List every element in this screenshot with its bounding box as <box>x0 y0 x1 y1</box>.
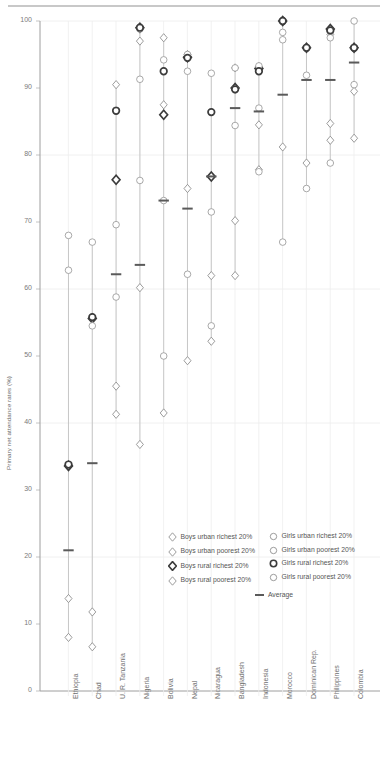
datapoint-boys-urban-poorest-20-6 <box>208 337 215 345</box>
datapoint-boys-rural-poorest-20-9 <box>279 143 286 151</box>
datapoint-girls-urban-richest-20-12 <box>351 18 358 25</box>
average-line-icon <box>255 594 264 596</box>
datapoint-boys-urban-poorest-20-2 <box>113 382 120 390</box>
datapoint-girls-rural-richest-20-7 <box>232 86 239 93</box>
datapoint-boys-rural-poorest-20-6 <box>208 272 215 280</box>
datapoint-boys-urban-poorest-20-1 <box>89 608 96 616</box>
datapoint-girls-rural-richest-20-1 <box>89 314 96 321</box>
legend-item-girls-3: Girls rural poorest 20% <box>269 573 355 582</box>
datapoint-boys-urban-poorest-20-0 <box>65 594 72 602</box>
datapoint-boys-urban-poorest-20-4 <box>160 101 167 109</box>
legend-label-girls-0: Girls urban richest 20% <box>281 533 352 540</box>
chart-legend: Boys urban richest 20%Boys urban poorest… <box>168 532 380 598</box>
datapoint-girls-rural-poorest-20-6 <box>208 209 215 216</box>
legend-label-boys-2: Boys rural richest 20% <box>181 563 249 570</box>
datapoint-boys-rural-poorest-20-11 <box>327 136 334 144</box>
datapoint-girls-urban-poorest-20-2 <box>113 221 120 228</box>
datapoint-girls-rural-richest-20-10 <box>303 45 310 52</box>
datapoint-girls-urban-richest-20-0 <box>65 232 72 239</box>
datapoint-boys-rural-poorest-20-2 <box>113 410 120 418</box>
datapoint-boys-urban-poorest-20-5 <box>184 184 191 192</box>
datapoint-boys-urban-richest-20-3 <box>136 37 143 45</box>
legend-label-boys-0: Boys urban richest 20% <box>181 534 253 541</box>
circle-bold-icon <box>269 559 278 568</box>
datapoint-girls-rural-poorest-20-2 <box>113 294 120 301</box>
datapoint-girls-urban-poorest-20-9 <box>279 36 286 43</box>
datapoint-girls-rural-poorest-20-9 <box>279 239 286 246</box>
datapoint-girls-rural-richest-20-5 <box>184 55 191 62</box>
legend-item-girls-0: Girls urban richest 20% <box>269 532 355 541</box>
datapoint-girls-urban-richest-20-4 <box>160 57 167 64</box>
legend-label-boys-1: Boys urban poorest 20% <box>181 548 255 555</box>
datapoint-boys-rural-poorest-20-5 <box>184 357 191 365</box>
legend-label-average: Average <box>268 591 293 598</box>
datapoint-boys-rural-poorest-20-0 <box>65 633 72 641</box>
legend-label-girls-3: Girls rural poorest 20% <box>281 574 351 581</box>
datapoint-boys-urban-poorest-20-11 <box>327 119 334 127</box>
datapoint-boys-rural-poorest-20-4 <box>160 409 167 417</box>
datapoint-girls-rural-poorest-20-8 <box>256 168 263 175</box>
datapoint-boys-rural-poorest-20-10 <box>303 159 310 167</box>
datapoint-boys-rural-poorest-20-3 <box>136 284 143 292</box>
datapoint-girls-rural-richest-20-11 <box>327 27 334 34</box>
datapoint-girls-urban-richest-20-7 <box>232 65 239 72</box>
datapoint-girls-urban-poorest-20-6 <box>208 323 215 330</box>
diamond-open-icon <box>168 576 177 586</box>
circle-open-icon <box>269 573 278 582</box>
datapoint-girls-urban-poorest-20-4 <box>160 353 167 360</box>
circle-open-icon <box>269 546 278 555</box>
datapoint-girls-rural-poorest-20-7 <box>232 122 239 129</box>
series-boys-urban-richest-20 <box>113 30 334 88</box>
datapoint-girls-urban-poorest-20-8 <box>256 105 263 112</box>
datapoint-boys-rural-poorest-20-12 <box>351 134 358 142</box>
legend-label-girls-2: Girls rural richest 20% <box>281 560 348 567</box>
datapoint-girls-urban-poorest-20-5 <box>184 271 191 278</box>
datapoint-boys-urban-poorest-20-8 <box>255 121 262 129</box>
legend-item-boys-2: Boys rural richest 20% <box>168 561 255 571</box>
datapoint-girls-rural-richest-20-2 <box>113 107 120 114</box>
plot-area <box>0 0 388 777</box>
datapoint-girls-rural-richest-20-0 <box>65 461 72 468</box>
circle-open-icon <box>269 532 278 541</box>
legend-item-boys-3: Boys rural poorest 20% <box>168 576 255 586</box>
datapoint-girls-rural-poorest-20-1 <box>89 323 96 330</box>
datapoint-boys-urban-richest-20-4 <box>160 34 167 42</box>
datapoint-girls-rural-poorest-20-11 <box>327 160 334 167</box>
datapoint-girls-rural-richest-20-8 <box>256 68 263 75</box>
datapoint-girls-rural-richest-20-4 <box>160 68 167 75</box>
datapoint-boys-urban-poorest-20-3 <box>136 440 143 448</box>
datapoint-girls-rural-poorest-20-12 <box>351 81 358 88</box>
diamond-bold-icon <box>168 561 177 571</box>
legend-label-girls-1: Girls urban poorest 20% <box>281 547 354 554</box>
datapoint-boys-rural-poorest-20-1 <box>89 643 96 651</box>
diamond-open-icon <box>168 532 177 542</box>
legend-label-boys-3: Boys rural poorest 20% <box>181 577 252 584</box>
datapoint-boys-rural-poorest-20-7 <box>232 272 239 280</box>
datapoint-girls-rural-poorest-20-10 <box>303 185 310 192</box>
legend-item-boys-1: Boys urban poorest 20% <box>168 547 255 557</box>
datapoint-boys-rural-richest-20-4 <box>160 110 168 119</box>
legend-item-girls-1: Girls urban poorest 20% <box>269 546 355 555</box>
datapoint-girls-rural-richest-20-3 <box>137 24 144 31</box>
datapoint-boys-urban-poorest-20-7 <box>232 217 239 225</box>
datapoint-girls-urban-poorest-20-3 <box>137 76 144 83</box>
legend-column-boys: Boys urban richest 20%Boys urban poorest… <box>168 532 255 586</box>
datapoint-girls-urban-richest-20-6 <box>208 70 215 77</box>
legend-column-girls: Girls urban richest 20%Girls urban poore… <box>269 532 355 586</box>
datapoint-boys-urban-richest-20-2 <box>113 81 120 89</box>
legend-item-average: Average <box>168 591 380 598</box>
datapoint-girls-urban-poorest-20-11 <box>327 34 334 41</box>
legend-item-boys-0: Boys urban richest 20% <box>168 532 255 542</box>
diamond-open-icon <box>168 547 177 557</box>
datapoint-boys-rural-richest-20-2 <box>112 175 120 184</box>
datapoint-girls-urban-richest-20-9 <box>279 29 286 36</box>
datapoint-girls-rural-poorest-20-0 <box>65 267 72 274</box>
datapoint-girls-rural-poorest-20-3 <box>137 177 144 184</box>
datapoint-girls-rural-richest-20-12 <box>351 45 358 52</box>
datapoint-boys-urban-poorest-20-12 <box>351 87 358 95</box>
datapoint-girls-rural-poorest-20-5 <box>184 68 191 75</box>
legend-item-girls-2: Girls rural richest 20% <box>269 559 355 568</box>
datapoint-girls-rural-richest-20-6 <box>208 109 215 116</box>
chart-container: Primary net attendance rates (%) 0102030… <box>0 0 388 777</box>
datapoint-girls-rural-richest-20-9 <box>279 18 286 25</box>
